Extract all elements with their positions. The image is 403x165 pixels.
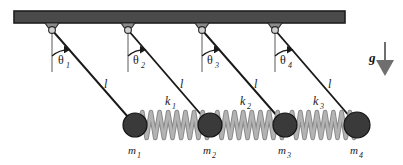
- mass-subscript-3: 3: [286, 151, 291, 160]
- mass-4: [344, 112, 370, 138]
- angle-subscript-3: 3: [214, 61, 219, 70]
- angle-subscript-1: 1: [66, 61, 70, 70]
- mass-label-3: m: [278, 144, 286, 156]
- angle-label-2: θ: [133, 53, 139, 67]
- mass-3: [273, 113, 297, 137]
- angle-subscript-4: 4: [288, 61, 292, 70]
- pivot-bracket-2: [121, 23, 135, 33]
- mass-subscript-1: 1: [137, 151, 141, 160]
- spring-constant-label-2: k: [240, 94, 246, 108]
- spring-constant-subscript-1: 1: [172, 102, 176, 111]
- mass-1: [123, 113, 147, 137]
- vertical-reference-lines-group: [52, 30, 275, 72]
- coupled-pendulum-diagram: θ1lm1θ2lm2θ3lm3θ4lm4k1k2k3 g: [0, 0, 403, 165]
- mass-disc-3: [273, 113, 297, 137]
- ceiling-bar: [14, 11, 345, 23]
- mass-disc-4: [344, 112, 370, 138]
- mass-label-2: m: [203, 144, 211, 156]
- spring-constant-subscript-2: 2: [247, 102, 251, 111]
- spring-constant-label-3: k: [313, 94, 319, 108]
- mass-subscript-4: 4: [359, 151, 363, 160]
- angle-label-1: θ: [58, 53, 64, 67]
- pivot-brackets-group: [45, 23, 282, 33]
- angle-label-3: θ: [207, 53, 213, 67]
- mass-disc-1: [123, 113, 147, 137]
- spring-constant-label-1: k: [165, 94, 171, 108]
- mass-disc-2: [198, 113, 222, 137]
- length-label-2: l: [180, 77, 184, 91]
- gravity-indicator: g: [368, 42, 385, 66]
- pivot-bracket-4: [268, 23, 282, 33]
- length-label-4: l: [328, 77, 332, 91]
- angle-subscript-2: 2: [141, 61, 145, 70]
- pivot-pin-3: [199, 27, 206, 34]
- length-label-1: l: [104, 77, 108, 91]
- gravity-label: g: [368, 50, 376, 65]
- angle-label-4: θ: [280, 53, 286, 67]
- physics-diagram-canvas: θ1lm1θ2lm2θ3lm3θ4lm4k1k2k3 g: [0, 0, 403, 165]
- pendulum-rod-1: [52, 30, 135, 125]
- mass-label-1: m: [128, 144, 136, 156]
- pivot-pin-2: [125, 27, 132, 34]
- spring-constant-subscript-3: 3: [319, 102, 324, 111]
- mass-label-4: m: [350, 144, 358, 156]
- ceiling-bar-rect: [14, 11, 345, 23]
- length-label-3: l: [254, 77, 258, 91]
- labels-group: θ1lm1θ2lm2θ3lm3θ4lm4k1k2k3: [58, 53, 363, 160]
- pivot-bracket-3: [195, 23, 209, 33]
- pivot-bracket-1: [45, 23, 59, 33]
- angle-arcs-group: [52, 50, 292, 56]
- mass-subscript-2: 2: [212, 151, 216, 160]
- springs-group: [135, 112, 357, 138]
- pivot-pin-1: [49, 27, 56, 34]
- mass-2: [198, 113, 222, 137]
- pivot-pin-4: [272, 27, 279, 34]
